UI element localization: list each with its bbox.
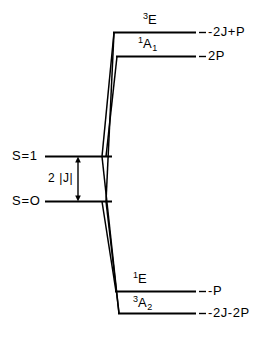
term-letter-triplet-a2: A — [138, 295, 147, 310]
term-letter-singlet-a1: A — [143, 36, 152, 51]
label-gap-2j: 2 |J| — [48, 172, 73, 184]
energy-level-diagram: S=1 S=O 2 |J| 3E 1A1 1E 3A2 -2J+P 2P -P … — [0, 0, 266, 340]
diagram-canvas — [0, 0, 266, 340]
term-symbol-triplet-a2: 3A2 — [133, 295, 152, 312]
label-s0: S=O — [12, 194, 41, 207]
term-symbol-singlet-e: 1E — [133, 271, 147, 288]
term-subscript-triplet-a2: 2 — [147, 302, 152, 312]
term-symbol-triplet-e: 3E — [143, 12, 157, 29]
energy-label-singlet-e: -P — [208, 284, 222, 297]
term-symbol-singlet-a1: 1A1 — [138, 36, 157, 53]
energy-label-singlet-a1: 2P — [208, 49, 225, 62]
energy-label-triplet-e: -2J+P — [208, 25, 245, 38]
correlation-line-s1-cross-down — [102, 157, 119, 314]
correlation-line-s0-cross-up — [106, 33, 114, 202]
term-subscript-singlet-a1: 1 — [152, 43, 157, 53]
gap-arrow — [75, 157, 81, 202]
term-letter-triplet-e: E — [148, 12, 157, 27]
energy-label-triplet-a2: -2J-2P — [208, 306, 250, 319]
label-s1: S=1 — [12, 149, 38, 162]
term-letter-singlet-e: E — [138, 271, 147, 286]
